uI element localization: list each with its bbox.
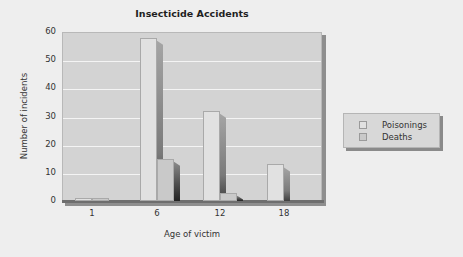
y-tick-label: 40 xyxy=(34,82,56,92)
legend: Poisonings Deaths xyxy=(343,113,440,148)
x-tick-label: 12 xyxy=(205,208,235,218)
legend-label: Poisonings xyxy=(382,120,427,130)
x-tick-label: 18 xyxy=(269,208,299,218)
y-tick-label: 0 xyxy=(34,195,56,205)
gridline xyxy=(63,146,321,147)
legend-label: Deaths xyxy=(382,132,412,142)
bar-poisonings-age-6 xyxy=(140,38,157,201)
gridline xyxy=(63,89,321,90)
x-axis-label: Age of victim xyxy=(62,229,322,239)
bar-poisonings-age-12 xyxy=(203,111,220,201)
legend-swatch-poisonings xyxy=(359,121,367,129)
y-tick-label: 50 xyxy=(34,54,56,64)
y-tick-label: 60 xyxy=(34,26,56,36)
legend-item-poisonings: Poisonings xyxy=(359,120,427,130)
chart-title: Insecticide Accidents xyxy=(62,8,322,19)
y-tick-label: 10 xyxy=(34,167,56,177)
bar-deaths-age-12 xyxy=(220,193,237,201)
bar-deaths-age-1 xyxy=(92,198,109,201)
bar-3d-side xyxy=(284,167,290,201)
y-axis-label: Number of incidents xyxy=(19,73,29,159)
x-tick-label: 6 xyxy=(142,208,172,218)
y-tick-label: 30 xyxy=(34,111,56,121)
gridline xyxy=(63,118,321,119)
bar-deaths-age-6 xyxy=(157,159,174,201)
x-tick-label: 1 xyxy=(77,208,107,218)
legend-swatch-deaths xyxy=(359,133,367,141)
y-tick-label: 20 xyxy=(34,139,56,149)
bar-poisonings-age-18 xyxy=(267,164,284,201)
gridline xyxy=(63,61,321,62)
legend-item-deaths: Deaths xyxy=(359,132,412,142)
bar-3d-side xyxy=(174,162,180,201)
bar-poisonings-age-1 xyxy=(75,198,92,201)
bar-3d-side xyxy=(220,114,226,201)
